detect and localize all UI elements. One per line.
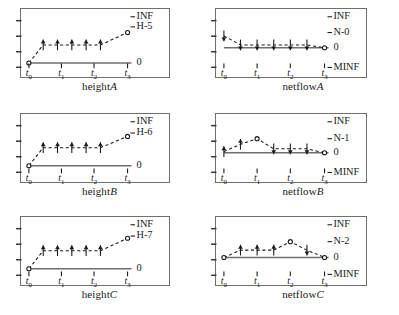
data-point-marker (255, 137, 259, 141)
data-point-marker (27, 164, 31, 168)
x-axis-tick-label: t2 (287, 172, 294, 186)
arrow-up-icon (98, 40, 103, 51)
plot-canvas-heightA: INFH-50t0t1t2t3 (21, 9, 169, 77)
x-axis-tick-label: t2 (287, 275, 294, 289)
panel-heightC: INFH-70t0t1t2t3heightC (0, 208, 199, 315)
data-point-marker (322, 151, 326, 155)
plot-box-netflowC: INFN-20MINFt0t1t2t3 (215, 216, 367, 286)
x-axis-tick-label: t0 (26, 172, 33, 186)
right-value-label: 0 (333, 146, 338, 157)
right-value-label: H-6 (136, 126, 152, 137)
arrow-down-icon (238, 40, 243, 51)
x-axis-tick-label: t1 (58, 172, 65, 186)
panel-netflowA: INFN-00MINFt0t1t2t3netflowA (199, 0, 399, 105)
panel-heightA: INFH-50t0t1t2t3heightA (0, 0, 199, 105)
plot-canvas-netflowA: INFN-00MINFt0t1t2t3 (216, 9, 366, 77)
x-axis-tick-label: t2 (91, 275, 98, 289)
data-point-marker (125, 236, 129, 240)
caption-system: B (317, 185, 324, 197)
arrow-up-icon (271, 245, 276, 256)
caption-quantity: height (82, 80, 110, 92)
caption-quantity: netflow (282, 288, 316, 300)
right-value-label: INF (136, 115, 153, 126)
plot-canvas-heightC: INFH-70t0t1t2t3 (21, 217, 169, 285)
data-point-marker (125, 31, 129, 35)
right-value-label: MINF (333, 61, 359, 72)
right-value-label: INF (333, 10, 350, 21)
x-axis-tick-label: t1 (254, 172, 261, 186)
arrow-up-icon (222, 146, 227, 157)
panel-netflowC: INFN-20MINFt0t1t2t3netflowC (199, 208, 399, 315)
right-value-label: 0 (136, 159, 141, 170)
caption-quantity: height (82, 185, 110, 197)
x-axis-tick-label: t3 (321, 67, 328, 81)
right-value-label: N-0 (333, 26, 349, 37)
panel-caption-netflowA: netflowA (207, 80, 399, 92)
right-value-label: 0 (136, 262, 141, 273)
panel-caption-netflowB: netflowB (207, 185, 399, 197)
right-value-label: N-2 (333, 235, 349, 246)
x-axis-tick-label: t1 (254, 275, 261, 289)
x-axis-tick-label: t3 (321, 172, 328, 186)
right-value-label: INF (333, 115, 350, 126)
caption-quantity: netflow (282, 185, 316, 197)
caption-system: C (316, 288, 323, 300)
x-axis-tick-label: t2 (91, 172, 98, 186)
x-axis-tick-label: t3 (321, 275, 328, 289)
x-axis-tick-label: t0 (221, 172, 228, 186)
caption-system: C (110, 288, 117, 300)
plot-box-netflowA: INFN-00MINFt0t1t2t3 (215, 8, 367, 78)
x-axis-tick-label: t1 (254, 67, 261, 81)
right-value-label: 0 (333, 251, 338, 262)
x-axis-tick-label: t0 (26, 67, 33, 81)
panel-caption-heightA: heightA (0, 80, 199, 92)
right-value-label: MINF (333, 268, 359, 279)
arrow-up-icon (98, 142, 103, 153)
arrow-down-icon (305, 245, 310, 256)
caption-quantity: height (82, 288, 110, 300)
x-axis-tick-label: t2 (91, 67, 98, 81)
arrow-down-icon (222, 31, 227, 42)
data-point-marker (288, 240, 292, 244)
caption-system: A (110, 80, 117, 92)
x-axis-tick-label: t3 (124, 172, 131, 186)
plot-box-heightB: INFH-60t0t1t2t3 (20, 113, 170, 183)
right-value-label: H-7 (136, 229, 152, 240)
panel-heightB: INFH-60t0t1t2t3heightB (0, 105, 199, 208)
caption-system: B (110, 185, 117, 197)
plot-canvas-netflowB: INFN-10MINFt0t1t2t3 (216, 114, 366, 182)
caption-quantity: netflow (282, 80, 316, 92)
panel-netflowB: INFN-10MINFt0t1t2t3netflowB (199, 105, 399, 208)
right-value-label: 0 (136, 56, 141, 67)
right-value-label: N-1 (333, 132, 349, 143)
panel-caption-heightB: heightB (0, 185, 199, 197)
plot-box-heightA: INFH-50t0t1t2t3 (20, 8, 170, 78)
right-value-label: INF (333, 218, 350, 229)
data-point-marker (322, 46, 326, 50)
plot-box-netflowB: INFN-10MINFt0t1t2t3 (215, 113, 367, 183)
figure-grid: INFH-50t0t1t2t3heightAINFN-00MINFt0t1t2t… (0, 0, 399, 315)
right-value-label: INF (136, 218, 153, 229)
arrow-up-icon (98, 245, 103, 256)
caption-system: A (317, 80, 324, 92)
data-point-marker (125, 134, 129, 138)
right-value-label: 0 (333, 41, 338, 52)
data-point-marker (322, 255, 326, 259)
plot-box-heightC: INFH-70t0t1t2t3 (20, 216, 170, 286)
x-axis-tick-label: t3 (124, 275, 131, 289)
plot-canvas-netflowC: INFN-20MINFt0t1t2t3 (216, 217, 366, 285)
right-value-label: H-5 (136, 20, 152, 31)
panel-caption-heightC: heightC (0, 288, 199, 300)
x-axis-tick-label: t0 (26, 275, 33, 289)
x-axis-tick-label: t0 (221, 275, 228, 289)
x-axis-tick-label: t1 (58, 275, 65, 289)
right-value-label: MINF (333, 166, 359, 177)
x-axis-tick-label: t2 (287, 67, 294, 81)
plot-canvas-heightB: INFH-60t0t1t2t3 (21, 114, 169, 182)
x-axis-tick-label: t3 (124, 67, 131, 81)
x-axis-tick-label: t0 (221, 67, 228, 81)
x-axis-tick-label: t1 (58, 67, 65, 81)
data-point-marker (222, 255, 226, 259)
data-point-marker (27, 267, 31, 271)
panel-caption-netflowC: netflowC (207, 288, 399, 300)
